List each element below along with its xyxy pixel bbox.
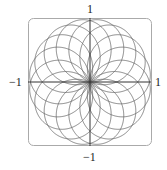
y-min-tick-label: −1 xyxy=(83,151,96,163)
y-max-tick-label: 1 xyxy=(87,3,93,15)
polar-rose-chart xyxy=(0,0,167,170)
x-max-tick-label: 1 xyxy=(155,76,161,88)
x-min-tick-label: −1 xyxy=(9,76,22,88)
